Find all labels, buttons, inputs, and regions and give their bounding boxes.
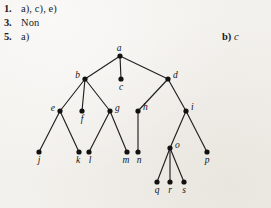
tree-node-l: l <box>86 149 91 165</box>
tree-node-dot-l <box>86 149 91 154</box>
tree-node-p: p <box>204 149 210 165</box>
tree-node-b: b <box>75 70 87 82</box>
tree-node-layer: abcdefghijklmnopqrs <box>36 43 210 195</box>
tree-node-dot-i <box>183 108 188 113</box>
tree-node-f: f <box>79 108 84 124</box>
tree-node-dot-c <box>118 76 123 81</box>
tree-node-label-g: g <box>115 103 120 113</box>
tree-node-dot-o <box>167 145 172 150</box>
tree-edge-d-i <box>168 79 186 111</box>
tree-node-dot-b <box>82 76 87 81</box>
tree-diagram: abcdefghijklmnopqrs <box>0 0 271 208</box>
tree-node-j: j <box>36 149 42 165</box>
tree-node-dot-f <box>79 108 84 113</box>
tree-edge-i-p <box>186 111 207 152</box>
tree-node-dot-m <box>124 149 129 154</box>
tree-edge-b-f <box>82 79 85 111</box>
tree-edge-a-d <box>120 56 168 79</box>
tree-edge-a-b <box>85 56 120 79</box>
tree-node-label-d: d <box>173 70 178 80</box>
tree-node-a: a <box>117 43 123 59</box>
tree-node-label-q: q <box>155 185 160 195</box>
scanned-page: 1. a), c), e) 3. Non 5. a) b) c abcdefgh… <box>0 0 271 208</box>
tree-node-label-m: m <box>123 155 130 165</box>
tree-edge-b-g <box>85 79 110 111</box>
tree-node-dot-r <box>167 179 172 184</box>
tree-node-dot-k <box>76 149 81 154</box>
tree-node-c: c <box>118 76 123 92</box>
tree-node-n: n <box>135 149 141 165</box>
tree-edge-a-c <box>120 56 121 79</box>
tree-node-i: i <box>183 102 194 114</box>
tree-node-dot-s <box>181 179 186 184</box>
tree-node-r: r <box>167 179 172 195</box>
tree-node-dot-a <box>117 53 122 58</box>
tree-node-label-a: a <box>117 43 122 53</box>
tree-node-label-e: e <box>51 103 55 113</box>
tree-node-label-p: p <box>204 155 210 165</box>
tree-node-d: d <box>165 70 178 82</box>
tree-node-s: s <box>181 179 186 195</box>
tree-node-q: q <box>154 179 159 195</box>
tree-node-dot-d <box>165 76 170 81</box>
tree-node-label-o: o <box>175 140 180 150</box>
tree-edge-o-q <box>157 148 170 182</box>
tree-node-label-c: c <box>119 82 124 92</box>
tree-node-m: m <box>123 149 130 165</box>
tree-node-e: e <box>51 103 63 114</box>
tree-node-dot-g <box>107 108 112 113</box>
tree-edge-g-l <box>89 111 110 152</box>
tree-edge-b-e <box>60 79 85 111</box>
tree-node-label-l: l <box>89 155 92 165</box>
tree-node-o: o <box>167 140 180 151</box>
tree-edge-g-m <box>110 111 127 152</box>
tree-svg: abcdefghijklmnopqrs <box>0 0 271 208</box>
tree-edge-e-j <box>39 111 60 152</box>
tree-node-dot-p <box>204 149 209 154</box>
tree-node-label-s: s <box>182 185 186 195</box>
tree-node-dot-j <box>36 149 41 154</box>
tree-node-g: g <box>107 103 120 114</box>
tree-node-label-f: f <box>81 114 85 124</box>
tree-edge-o-s <box>170 148 184 182</box>
tree-node-dot-h <box>135 108 140 113</box>
tree-edge-e-k <box>60 111 79 152</box>
tree-node-label-h: h <box>143 102 148 112</box>
tree-node-k: k <box>76 149 82 165</box>
tree-node-dot-q <box>154 179 159 184</box>
tree-node-label-j: j <box>36 155 41 165</box>
tree-node-label-n: n <box>137 155 142 165</box>
tree-node-label-r: r <box>168 185 172 195</box>
tree-node-label-b: b <box>75 70 80 80</box>
tree-node-label-k: k <box>76 155 81 165</box>
tree-node-dot-e <box>57 108 62 113</box>
tree-node-dot-n <box>135 149 140 154</box>
tree-node-label-i: i <box>191 102 194 112</box>
